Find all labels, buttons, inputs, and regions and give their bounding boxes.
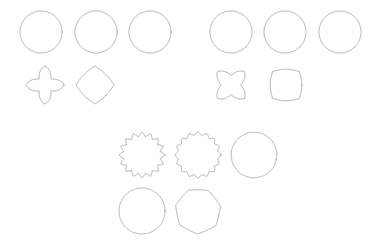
spiked-star-sixteen: [119, 132, 165, 178]
four-point-star-rotated: [217, 71, 245, 99]
cross-x-rounded: [319, 11, 361, 53]
cross-slightly-rounded: [75, 11, 117, 53]
cross-sharp: [20, 11, 62, 53]
rounded-heptagon: [176, 190, 221, 234]
cross-x-sharp: [210, 11, 252, 53]
shape-gallery-svg: [0, 0, 376, 241]
wavy-star-sixteen: [175, 132, 221, 178]
rounded-square: [270, 69, 302, 101]
shape-gallery-canvas: [0, 0, 376, 241]
four-point-star: [26, 66, 64, 104]
circle: [119, 188, 165, 234]
cross-x-slightly-rounded: [264, 11, 306, 53]
cross-rounded: [129, 11, 171, 53]
rounded-nonagon: [231, 132, 277, 178]
rounded-diamond: [76, 66, 114, 104]
